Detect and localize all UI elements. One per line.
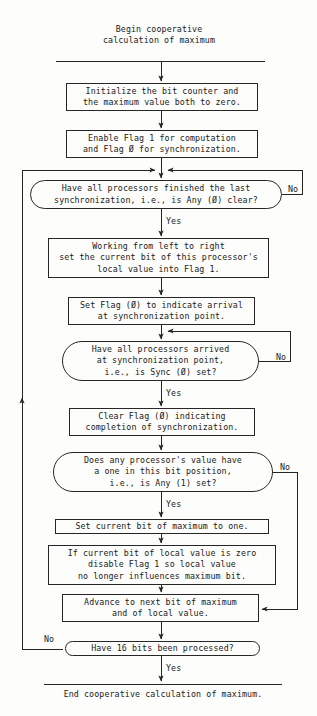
edge-label-yes-3: Yes [166,499,181,509]
edge-label-yes-1: Yes [166,216,181,226]
edge-label-yes-4: Yes [166,663,181,673]
node-enable-flags: Enable Flag 1 for computation and Flag Ø… [66,130,258,158]
edge-label-no-1: No [288,184,298,194]
node-set-max-bit: Set current bit of maximum to one. [55,519,269,534]
end-label: End cooperative calculation of maximum. [34,689,292,700]
edge-label-no-2: No [276,352,286,362]
edge-label-no-3: No [280,462,290,472]
node-any-zero-clear: Have all processors finished the last sy… [30,180,282,209]
edge-label-yes-2: Yes [166,388,181,398]
node-disable-flag-one: If current bit of local value is zero di… [48,545,276,585]
edge-no3-bypass [262,472,297,609]
node-advance-bit: Advance to next bit of maximum and of lo… [62,594,259,622]
end-rule [44,684,282,685]
flowchart-canvas: Begin cooperative calculation of maximum… [0,0,317,716]
start-rule [56,61,265,62]
node-clear-flag-zero: Clear Flag (Ø) indicating completion of … [69,408,255,436]
node-sync-zero-set: Have all processors arrived at synchroni… [62,341,259,381]
node-init: Initialize the bit counter and the maxim… [66,83,258,111]
start-label: Begin cooperative calculation of maximum [57,24,261,47]
node-set-flag-zero: Set Flag (Ø) to indicate arrival at sync… [68,297,255,325]
node-any-one-set: Does any processor's value have a one in… [53,452,273,492]
node-sixteen-bits: Have 16 bits been processed? [65,641,260,656]
edge-label-no-4: No [44,634,54,644]
node-set-local-bit: Working from left to right set the curre… [48,238,269,278]
